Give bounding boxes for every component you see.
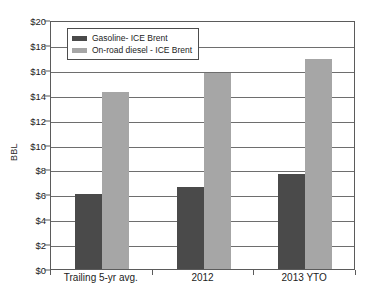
- x-axis-tick-mark: [50, 270, 51, 275]
- y-axis-tick-label: $8: [2, 165, 46, 176]
- legend-item: On-road diesel - ICE Brent: [72, 44, 192, 56]
- bar: [305, 59, 332, 269]
- y-axis-tick-label: $16: [2, 65, 46, 76]
- legend-item: Gasoline- ICE Brent: [72, 32, 192, 44]
- y-axis-tick-label: $4: [2, 215, 46, 226]
- x-axis-tick-mark: [355, 270, 356, 275]
- x-axis-tick-label: 2012: [191, 272, 213, 283]
- chart-legend: Gasoline- ICE BrentOn-road diesel - ICE …: [67, 28, 199, 60]
- x-axis-tick-label: 2013 YTO: [282, 272, 327, 283]
- legend-swatch-icon: [72, 36, 87, 41]
- bar: [177, 187, 204, 269]
- y-axis-tick-label: $14: [2, 90, 46, 101]
- x-axis-tick-label: Trailing 5-yr avg.: [64, 272, 138, 283]
- bar: [102, 92, 129, 269]
- bar: [75, 194, 102, 269]
- y-axis-tick-label: $12: [2, 115, 46, 126]
- y-axis-tick-label: $18: [2, 40, 46, 51]
- legend-item-label: Gasoline- ICE Brent: [92, 32, 168, 44]
- x-axis-tick-mark: [253, 270, 254, 275]
- y-axis-tick-label: $6: [2, 190, 46, 201]
- y-axis-tick-label: $2: [2, 240, 46, 251]
- bar: [278, 174, 305, 269]
- legend-swatch-icon: [72, 48, 87, 53]
- bar-chart-figure: BBL $0$2$4$6$8$10$12$14$16$18$20 Trailin…: [0, 0, 369, 299]
- y-axis-tick-labels: $0$2$4$6$8$10$12$14$16$18$20: [0, 21, 46, 270]
- y-axis-tick-label: $20: [2, 16, 46, 27]
- x-axis-tick-labels: Trailing 5-yr avg.20122013 YTO: [50, 272, 355, 292]
- bar: [204, 73, 231, 269]
- legend-item-label: On-road diesel - ICE Brent: [92, 44, 192, 56]
- y-axis-tick-label: $10: [2, 140, 46, 151]
- x-axis-tick-mark: [152, 270, 153, 275]
- y-axis-tick-label: $0: [2, 265, 46, 276]
